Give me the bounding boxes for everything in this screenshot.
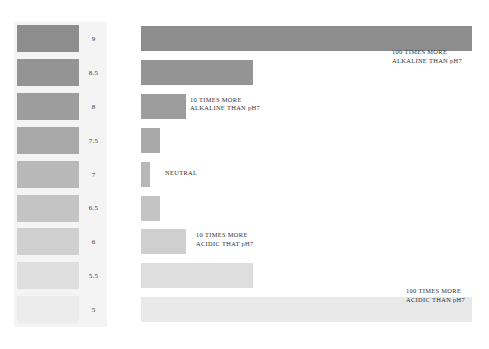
bar-annotation: 10 TIMES MOREALKALINE THAN pH7 [190, 96, 260, 113]
bar-annotation: 100 TIMES MOREACIDIC THAN pH7 [406, 287, 465, 304]
ph-concentration-bar [141, 128, 160, 153]
bar-row: 10 TIMES MOREACIDIC THAT pH7 [0, 225, 489, 259]
bar-row: 100 TIMES MOREACIDIC THAN pH7 [0, 293, 489, 327]
ph-concentration-bar [141, 60, 253, 85]
bar-annotation-line: ALKALINE THAN pH7 [190, 104, 260, 113]
bar-annotation: NEUTRAL [165, 169, 197, 178]
bar-annotation-line: 100 TIMES MORE [406, 287, 465, 296]
bar-annotation-line: 10 TIMES MORE [196, 231, 254, 240]
ph-concentration-bar [141, 263, 253, 288]
ph-scale-figure: 98.587.576.565.55 100 TIMES MOREALKALINE… [0, 0, 489, 349]
ph-concentration-bar [141, 94, 186, 119]
bar-annotation-line: ACIDIC THAN pH7 [406, 296, 465, 305]
bar-row [0, 124, 489, 158]
bar-row: 10 TIMES MOREALKALINE THAN pH7 [0, 90, 489, 124]
bar-annotation-line: 10 TIMES MORE [190, 96, 260, 105]
bar-row [0, 192, 489, 226]
ph-concentration-bar [141, 196, 160, 221]
bar-row: NEUTRAL [0, 158, 489, 192]
bar-row [0, 56, 489, 90]
ph-bar-chart-area: 100 TIMES MOREALKALINE THAN pH710 TIMES … [0, 0, 489, 349]
bar-annotation-line: NEUTRAL [165, 169, 197, 178]
bar-annotation: 10 TIMES MOREACIDIC THAT pH7 [196, 231, 254, 248]
bar-row: 100 TIMES MOREALKALINE THAN pH7 [0, 22, 489, 56]
ph-concentration-bar [141, 162, 150, 187]
bar-annotation-line: ACIDIC THAT pH7 [196, 240, 254, 249]
ph-concentration-bar [141, 229, 186, 254]
